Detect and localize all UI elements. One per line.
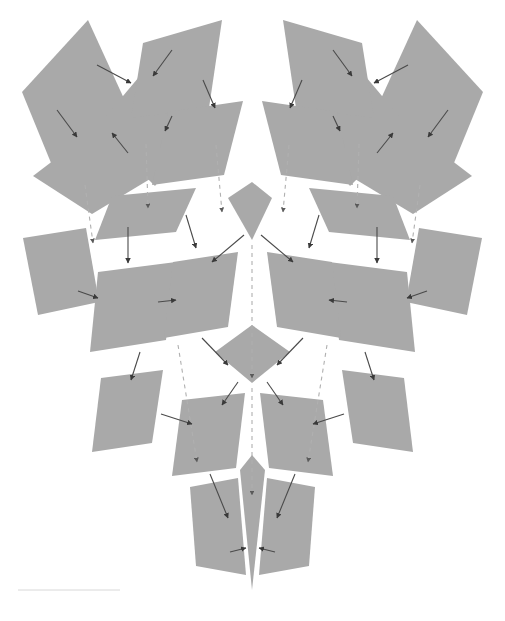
- node-link-diagram: [0, 0, 505, 621]
- node-parallelogram[interactable]: [342, 370, 413, 452]
- node-parallelogram[interactable]: [90, 262, 176, 352]
- node-parallelogram[interactable]: [267, 252, 341, 338]
- node-parallelogram[interactable]: [260, 393, 333, 476]
- diagram-canvas: [0, 0, 505, 621]
- node-parallelogram[interactable]: [164, 252, 238, 338]
- node-parallelogram[interactable]: [92, 370, 163, 452]
- node-parallelogram[interactable]: [172, 393, 245, 476]
- node-parallelogram[interactable]: [329, 262, 415, 352]
